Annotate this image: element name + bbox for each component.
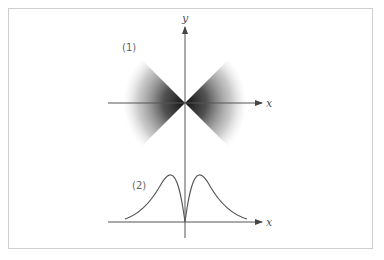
panel-2-label: (2) — [132, 180, 146, 191]
upper-x-axis-label: x — [266, 97, 273, 110]
lower-x-axis-label: x — [266, 216, 273, 229]
panel-1-label: (1) — [122, 42, 136, 53]
diagram-canvas: x y (1) (2) x — [0, 0, 384, 260]
y-axis-label: y — [181, 12, 189, 25]
